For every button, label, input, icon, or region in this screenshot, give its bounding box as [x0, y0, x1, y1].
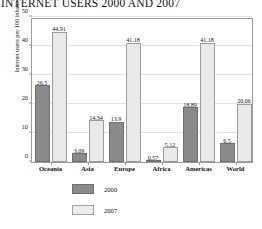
legend-swatch	[72, 184, 94, 194]
bar-group: 13.941.18	[109, 19, 141, 162]
bar-value-label: 5.12	[165, 142, 176, 148]
y-tick-mark	[29, 161, 32, 162]
y-tick-mark	[29, 103, 32, 104]
legend-swatch	[72, 205, 94, 215]
bar-group: 3.0914.34	[72, 19, 104, 162]
bar-value-label: 44.91	[52, 26, 66, 32]
bar: 41.18	[126, 43, 141, 162]
x-tick-label: Oceania	[39, 165, 62, 172]
bar: 0.57	[146, 160, 161, 162]
legend-label: 2007	[104, 207, 117, 214]
bar: 41.18	[200, 43, 215, 162]
x-tick-label: Africa	[153, 165, 171, 172]
y-tick-label: 50	[22, 7, 28, 14]
y-tick-mark	[29, 74, 32, 75]
y-tick-mark	[29, 132, 32, 133]
legend-item[interactable]: 2000	[72, 183, 117, 195]
y-tick-label: 0	[25, 152, 28, 159]
bar: 5.12	[163, 147, 178, 162]
bar: 3.09	[72, 153, 87, 162]
bar: 13.9	[109, 122, 124, 162]
y-tick-label: 20	[22, 94, 28, 101]
bar-group: 18.8941.18	[183, 19, 215, 162]
chart-legend: 20002007	[72, 183, 117, 225]
bar-value-label: 26.5	[37, 80, 48, 86]
chart-title: INTERNET USERS 2000 AND 2007	[0, 0, 262, 9]
legend-label: 2000	[104, 186, 117, 193]
legend-item[interactable]: 2007	[72, 204, 117, 216]
bar-value-label: 14.34	[89, 115, 103, 121]
bar: 18.89	[183, 107, 198, 162]
bar-value-label: 6.5	[223, 138, 231, 144]
bar-value-label: 13.9	[111, 116, 122, 122]
plot-area: 01020304050 26.544.913.0914.3413.941.180…	[31, 18, 253, 163]
bar-value-label: 20.06	[237, 98, 251, 104]
bar: 44.91	[52, 32, 67, 162]
bar-group: 6.520.06	[220, 19, 252, 162]
bar: 6.5	[220, 143, 235, 162]
bar-value-label: 41.18	[200, 37, 214, 43]
bar: 14.34	[89, 120, 104, 162]
y-tick-mark	[29, 16, 32, 17]
gridline	[32, 16, 252, 17]
y-axis-title: Internet users per 100 inhabitants	[13, 0, 20, 102]
y-tick-label: 30	[22, 65, 28, 72]
x-tick-label: Americas	[185, 165, 212, 172]
bar-value-label: 18.89	[183, 102, 197, 108]
x-tick-label: Europe	[114, 165, 135, 172]
bar: 26.5	[35, 85, 50, 162]
bar: 20.06	[237, 104, 252, 162]
bar-value-label: 0.57	[148, 155, 159, 161]
x-tick-label: World	[227, 165, 245, 172]
bar-group: 26.544.91	[35, 19, 67, 162]
x-tick-label: Asia	[81, 165, 93, 172]
y-tick-mark	[29, 45, 32, 46]
bar-group: 0.575.12	[146, 19, 178, 162]
bar-value-label: 41.18	[126, 37, 140, 43]
y-tick-label: 10	[22, 123, 28, 130]
y-tick-label: 40	[22, 36, 28, 43]
bar-value-label: 3.09	[74, 148, 85, 154]
chart-figure: INTERNET USERS 2000 AND 2007 Internet us…	[0, 0, 262, 229]
